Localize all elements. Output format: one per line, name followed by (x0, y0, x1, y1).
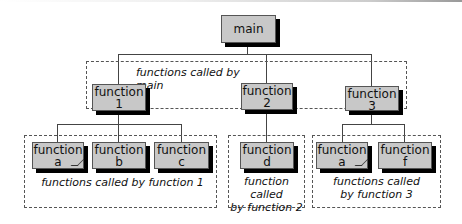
node-sublabel: c (155, 156, 208, 168)
node-function-a[interactable]: function a (32, 142, 84, 169)
node-function-3[interactable]: function 3 (345, 86, 399, 111)
node-sublabel: b (93, 156, 145, 168)
connector-group3-horizontal (342, 124, 405, 125)
caption-line-2: by function 3 (312, 188, 441, 201)
connector-group1-horizontal (57, 124, 182, 125)
top-border (0, 0, 462, 2)
caption-called-by-function-2: function called by function 2 (228, 175, 305, 214)
node-sublabel: 3 (346, 100, 398, 112)
node-main[interactable]: main (221, 15, 276, 43)
node-sublabel: f (379, 156, 431, 168)
node-main-label: main (234, 22, 264, 36)
node-function-1[interactable]: function 1 (92, 84, 146, 111)
caption-called-by-main: functions called by main (136, 66, 246, 92)
caption-line-1: functions called (312, 175, 441, 188)
node-sublabel: 1 (93, 98, 145, 110)
node-sublabel: d (241, 156, 293, 168)
connector-level1-horizontal (118, 54, 372, 55)
node-function-f[interactable]: function f (378, 142, 432, 169)
caption-line-2: by function 2 (228, 201, 305, 214)
caption-called-by-function-1: functions called by function 1 (40, 176, 205, 189)
node-sublabel: 2 (242, 97, 292, 109)
node-function-d[interactable]: function d (240, 142, 294, 169)
node-function-2[interactable]: function 2 (241, 83, 293, 110)
node-function-b[interactable]: function b (92, 142, 146, 169)
caption-called-by-function-3: functions called by function 3 (312, 175, 441, 201)
node-function-a-reused[interactable]: function a (316, 142, 368, 169)
connector-function-1-down (118, 110, 119, 124)
caption-line-1: function called (228, 175, 305, 201)
node-function-c[interactable]: function c (154, 142, 209, 169)
